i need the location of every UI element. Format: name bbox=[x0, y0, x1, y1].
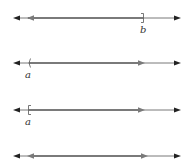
left-arrow-icon bbox=[13, 154, 20, 159]
number-line-3: a bbox=[13, 106, 181, 128]
left-arrow-icon bbox=[13, 61, 20, 66]
left-arrow-icon bbox=[13, 16, 20, 21]
interval-left-arrow-icon bbox=[27, 15, 34, 21]
right-arrow-icon bbox=[174, 61, 181, 66]
interval-right-arrow-icon bbox=[141, 153, 148, 159]
interval-right-arrow-icon bbox=[138, 107, 145, 113]
number-line-2: a bbox=[13, 59, 181, 81]
left-arrow-icon bbox=[13, 108, 20, 113]
number-line-1: b bbox=[13, 14, 181, 36]
interval-left-arrow-icon bbox=[27, 153, 34, 159]
right-arrow-icon bbox=[174, 16, 181, 21]
number-line-4 bbox=[13, 153, 181, 159]
endpoint-label-a: a bbox=[25, 116, 31, 127]
endpoint-label-b: b bbox=[140, 24, 146, 35]
right-arrow-icon bbox=[174, 108, 181, 113]
right-arrow-icon bbox=[174, 154, 181, 159]
number-lines-diagram: b a a bbox=[0, 0, 191, 164]
endpoint-label-a: a bbox=[25, 69, 31, 80]
interval-right-arrow-icon bbox=[138, 60, 145, 66]
